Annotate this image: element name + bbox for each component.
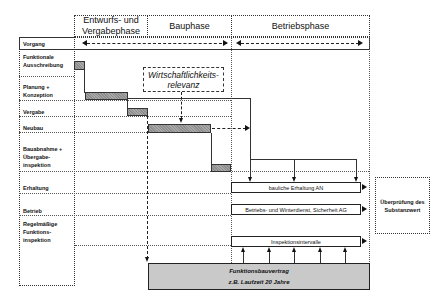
connector xyxy=(250,159,356,160)
connector-dashed xyxy=(212,128,246,129)
connector xyxy=(84,70,85,93)
phase-header-bau: Bauphase xyxy=(147,15,232,37)
arrow-up-icon xyxy=(343,247,347,252)
bar-neubau xyxy=(148,124,211,133)
row-separator xyxy=(19,132,149,133)
row-separator xyxy=(19,100,231,101)
arrow-right-icon xyxy=(362,238,367,244)
relevance-pointer xyxy=(181,92,182,119)
erhaltung-box: bauliche Erhaltung AN xyxy=(231,182,361,193)
interval-line xyxy=(269,252,270,263)
arrow-down-icon xyxy=(145,257,149,262)
substance-check-box: Überprüfung des Substanzwert xyxy=(375,177,430,234)
row-separator xyxy=(75,245,231,246)
bar-funktionale-ausschreibung xyxy=(74,61,85,70)
relevance-note: Wirtschaftlichkeits-relevanz xyxy=(143,67,224,92)
main-right-border xyxy=(369,37,370,290)
arrow-right-icon xyxy=(362,184,367,190)
betrieb-box: Betriebs- und Winterdienst, Sicherheit A… xyxy=(231,204,361,215)
row-label-erhaltung: Erhaltung xyxy=(20,184,74,192)
phase-span-line xyxy=(241,43,359,44)
phase-divider xyxy=(231,37,232,263)
row-separator xyxy=(19,215,231,216)
row-label-bauabnahme: Bauabnahme + Übergabe-inspektion xyxy=(20,145,74,169)
interval-line xyxy=(345,252,346,263)
phase-span-line xyxy=(87,43,227,44)
row-label-vergabe: Vergabe xyxy=(20,108,74,116)
interval-line xyxy=(243,252,244,263)
row-label-funktionale-ausschreibung: Funktionale Ausschreibung xyxy=(20,53,74,69)
contract-duration: z.B. Laufzeit 20 Jahre xyxy=(228,277,289,288)
arrow-up-icon xyxy=(318,247,322,252)
row-separator xyxy=(19,76,74,77)
arrow-down-icon xyxy=(179,118,183,123)
row-label-planung: Planung + Konzeption xyxy=(20,83,74,99)
bauphase-start-line xyxy=(147,116,148,259)
arrow-right-icon xyxy=(362,206,367,212)
bar-vergabe xyxy=(127,108,148,116)
arrow-up-icon xyxy=(267,247,271,252)
phase-arrow-right-icon xyxy=(223,40,228,46)
interval-line xyxy=(320,252,321,263)
connector xyxy=(250,98,251,177)
row-label-neubau: Neubau xyxy=(20,124,74,132)
bar-planung xyxy=(85,92,128,100)
row-separator xyxy=(19,116,231,117)
connector xyxy=(128,98,250,99)
connector xyxy=(127,100,128,108)
row-label-betrieb: Betrieb xyxy=(20,207,74,215)
arrow-right-icon xyxy=(245,125,250,131)
inspektion-box: Inspektionsintervalle xyxy=(231,236,361,247)
connector xyxy=(294,159,295,177)
row-separator xyxy=(19,193,231,194)
phase-arrow-right-icon xyxy=(358,40,363,46)
contract-title: Funktionsbauvertrag xyxy=(229,266,289,277)
connector xyxy=(356,159,357,177)
arrow-up-icon xyxy=(292,247,296,252)
row-separator xyxy=(19,171,369,172)
bar-bauabnahme xyxy=(211,164,231,172)
phase-header-betrieb: Betriebsphase xyxy=(231,15,370,37)
interval-line xyxy=(294,252,295,263)
arrow-up-icon xyxy=(241,247,245,252)
phase-header-entwurf: Entwurfs- und Vergabephase xyxy=(74,15,148,37)
vorgang-label: Vorgang xyxy=(20,40,74,48)
contract-box: Funktionsbauvertrag z.B. Laufzeit 20 Jah… xyxy=(148,263,370,290)
row-label-regelmaessige-inspektion: Regelmäßige Funktions-inspektion xyxy=(20,220,74,244)
connector xyxy=(211,133,212,164)
